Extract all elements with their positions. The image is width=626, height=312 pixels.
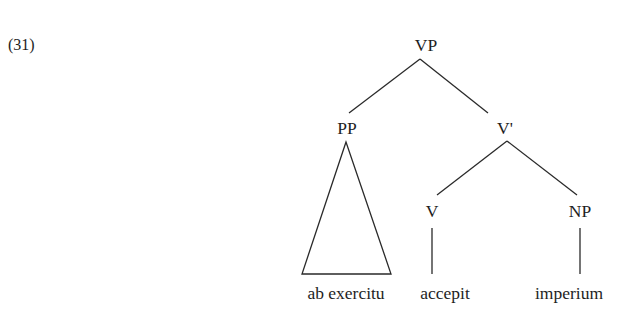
branch-vp-pp	[349, 59, 420, 113]
node-pp: PP	[337, 118, 357, 138]
leaf-ab-exercitu: ab exercitu	[307, 283, 384, 303]
node-np: NP	[569, 201, 592, 221]
node-vp: VP	[415, 35, 438, 55]
node-v: V	[426, 201, 439, 221]
leaf-imperium: imperium	[535, 283, 603, 303]
pp-triangle	[302, 142, 391, 274]
syntax-tree: VP PP V' V NP ab exercitu accepit imperi…	[0, 0, 626, 312]
branch-vbar-v	[437, 141, 507, 195]
leaf-accepit: accepit	[420, 283, 470, 303]
branch-vbar-np	[507, 141, 577, 195]
branch-vp-vbar	[420, 59, 488, 113]
node-vbar: V'	[497, 118, 513, 138]
